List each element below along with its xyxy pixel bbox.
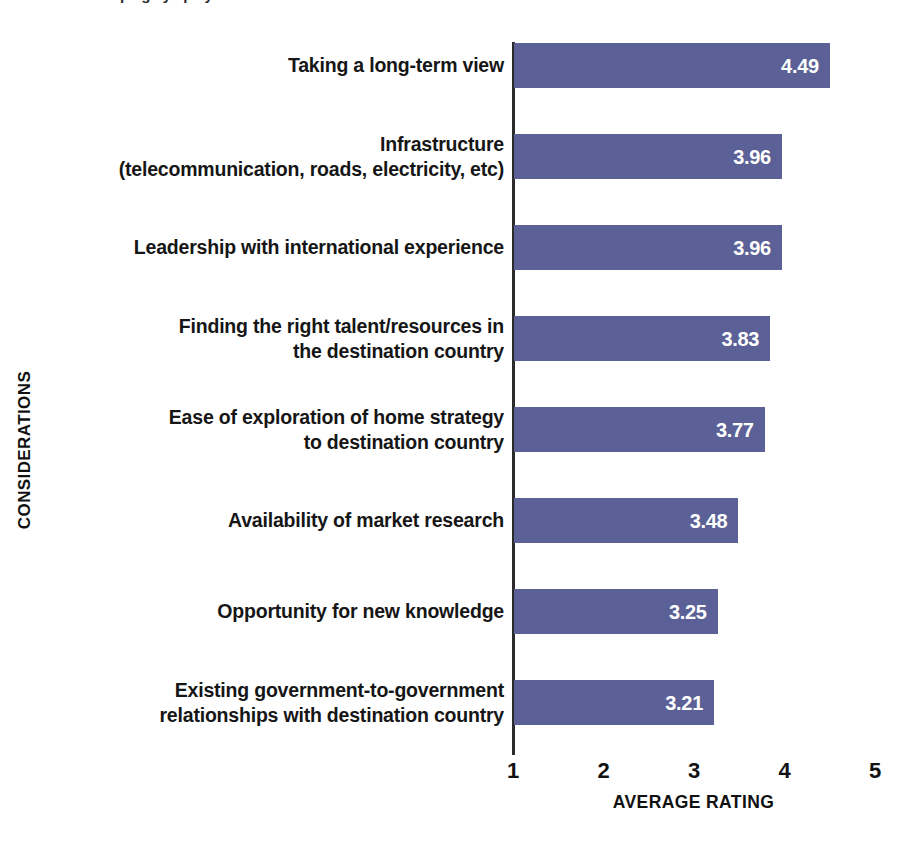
bar-row: Availability of market research3.48	[0, 475, 915, 566]
bar[interactable]: 4.49	[514, 43, 830, 88]
x-axis-title: AVERAGE RATING	[512, 792, 875, 813]
bar[interactable]: 3.96	[514, 134, 782, 179]
bar-row: Opportunity for new knowledge3.25	[0, 566, 915, 657]
bar-row: Infrastructure(telecommunication, roads,…	[0, 111, 915, 202]
bar-row: Existing government-to-governmentrelatio…	[0, 657, 915, 748]
bar-category-label-line: Finding the right talent/resources in	[179, 314, 504, 339]
bar-category-label: Availability of market research	[84, 475, 504, 566]
bar-category-label-line: the destination country	[293, 339, 504, 364]
bar-value-label: 4.49	[781, 56, 830, 76]
bar-category-label-line: Leadership with international experience	[134, 235, 504, 260]
bar-category-label: Leadership with international experience	[84, 202, 504, 293]
x-tick-label: 3	[674, 758, 714, 784]
bar-row: Taking a long-term view4.49	[0, 20, 915, 111]
bar[interactable]: 3.48	[514, 498, 738, 543]
bar-value-label: 3.96	[733, 238, 782, 258]
bar-category-label: Ease of exploration of home strategyto d…	[84, 384, 504, 475]
bar-value-label: 3.25	[669, 602, 718, 622]
bar-category-label-line: to destination country	[304, 430, 504, 455]
bar-category-label-line: Existing government-to-government	[175, 678, 504, 703]
bar-category-label: Taking a long-term view	[84, 20, 504, 111]
x-tick-label: 1	[493, 758, 533, 784]
bar[interactable]: 3.83	[514, 316, 770, 361]
x-axis-tick-labels: 12345	[0, 758, 915, 788]
bar-value-label: 3.21	[665, 693, 714, 713]
bar[interactable]: 3.77	[514, 407, 765, 452]
bar-category-label-line: relationships with destination country	[159, 703, 504, 728]
bar[interactable]: 3.96	[514, 225, 782, 270]
bar-category-label-line: Ease of exploration of home strategy	[169, 405, 504, 430]
bar-value-label: 3.83	[721, 329, 770, 349]
bar-category-label: Existing government-to-governmentrelatio…	[84, 657, 504, 748]
chart-plot-area: CONSIDERATIONS Taking a long-term view4.…	[0, 0, 915, 842]
bar[interactable]: 3.25	[514, 589, 718, 634]
bar-value-label: 3.96	[733, 147, 782, 167]
bar-row: Finding the right talent/resources inthe…	[0, 293, 915, 384]
bar-value-label: 3.48	[690, 511, 739, 531]
bar-category-label-line: Opportunity for new knowledge	[217, 599, 504, 624]
x-tick-label: 2	[584, 758, 624, 784]
bar-value-label: 3.77	[716, 420, 765, 440]
bar-category-label-line: Taking a long-term view	[288, 53, 504, 78]
bar-row: Ease of exploration of home strategyto d…	[0, 384, 915, 475]
bar[interactable]: 3.21	[514, 680, 714, 725]
x-tick-label: 4	[765, 758, 805, 784]
bar-category-label-line: Infrastructure	[380, 132, 504, 157]
bar-category-label: Finding the right talent/resources inthe…	[84, 293, 504, 384]
bar-category-label-line: Availability of market research	[228, 508, 504, 533]
bar-category-label: Opportunity for new knowledge	[84, 566, 504, 657]
bar-category-label-line: (telecommunication, roads, electricity, …	[119, 157, 504, 182]
bar-category-label: Infrastructure(telecommunication, roads,…	[84, 111, 504, 202]
x-tick-label: 5	[855, 758, 895, 784]
bar-row: Leadership with international experience…	[0, 202, 915, 293]
